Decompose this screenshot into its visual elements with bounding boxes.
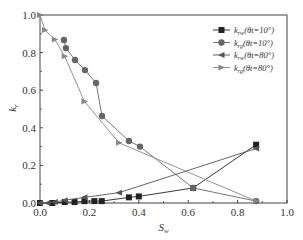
- x-axis-label: Sw: [158, 221, 169, 235]
- data-point: [126, 194, 132, 200]
- data-point: [99, 113, 105, 119]
- legend-entry: krg(θt=10°): [234, 38, 273, 49]
- data-point: [126, 138, 132, 144]
- data-point: [190, 185, 196, 191]
- y-tick-label: 0.2: [22, 159, 36, 171]
- data-point: [63, 45, 69, 51]
- series-3: [37, 12, 260, 204]
- data-point: [82, 67, 88, 73]
- y-tick-label: 1.0: [22, 9, 36, 21]
- y-tick-label: 0.0: [22, 197, 36, 209]
- legend: krw(θt=10°)krg(θt=10°)krw(θt=80°)krg(θt=…: [213, 25, 274, 74]
- x-tick-label: 0.2: [83, 206, 97, 218]
- data-point: [52, 36, 59, 42]
- series-0: [37, 142, 259, 206]
- legend-entry: krw(θt=80°): [234, 50, 274, 61]
- y-axis-label: kr: [6, 104, 20, 112]
- data-point: [93, 80, 99, 86]
- data-point: [99, 198, 105, 204]
- data-point: [62, 53, 68, 59]
- legend-entry: krw(θt=10°): [234, 25, 274, 36]
- data-point: [72, 199, 78, 205]
- series-2: [37, 145, 260, 206]
- data-point: [61, 37, 67, 43]
- data-point: [72, 57, 78, 63]
- x-tick-label: 0.6: [181, 206, 195, 218]
- y-tick-label: 0.8: [22, 47, 36, 59]
- legend-entry: krg(θt=80°): [234, 63, 273, 74]
- data-point: [137, 143, 143, 149]
- y-tick-label: 0.4: [22, 122, 36, 134]
- x-tick-label: 1.0: [280, 206, 294, 218]
- y-tick-label: 0.6: [22, 84, 36, 96]
- data-point: [81, 98, 88, 104]
- data-point: [136, 193, 142, 199]
- x-tick-label: 0.8: [231, 206, 245, 218]
- chart-container: 0.00.20.40.60.81.00.00.20.40.60.81.0Swkr…: [0, 0, 303, 240]
- data-point: [116, 140, 123, 146]
- x-tick-label: 0.4: [132, 206, 146, 218]
- line-chart: 0.00.20.40.60.81.00.00.20.40.60.81.0Swkr…: [0, 0, 303, 240]
- data-point: [91, 198, 97, 204]
- data-point: [116, 190, 123, 196]
